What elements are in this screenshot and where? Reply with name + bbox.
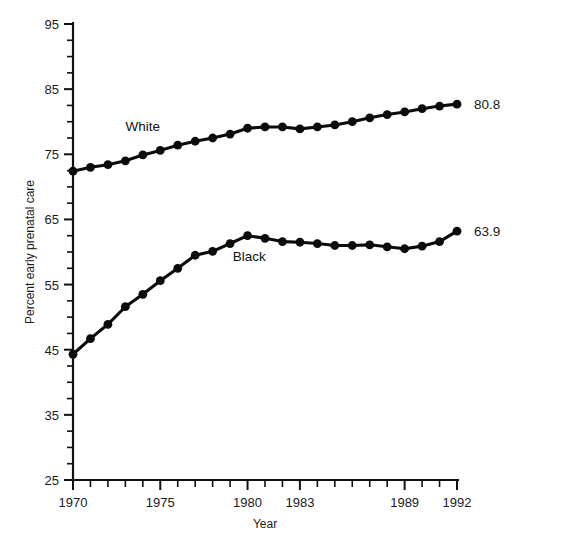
- data-point: [365, 113, 374, 122]
- data-point: [138, 151, 147, 160]
- data-point: [243, 231, 252, 240]
- data-point: [208, 134, 217, 143]
- data-point: [383, 242, 392, 251]
- data-point: [330, 121, 339, 130]
- data-point: [418, 104, 427, 113]
- data-point: [69, 350, 78, 359]
- data-point: [400, 244, 409, 253]
- data-point: [173, 141, 182, 150]
- data-point: [383, 110, 392, 119]
- x-tick-label: 1992: [443, 495, 472, 510]
- series-white: [69, 100, 462, 176]
- data-point: [208, 247, 217, 256]
- x-axis-ticks: [73, 480, 457, 490]
- data-point: [243, 124, 252, 133]
- x-tick-label: 1989: [390, 495, 419, 510]
- y-tick-label: 95: [45, 17, 59, 32]
- y-tick-label: 35: [45, 408, 59, 423]
- data-point: [261, 123, 270, 132]
- data-point: [226, 130, 235, 139]
- data-point: [278, 237, 287, 246]
- data-point: [104, 160, 113, 169]
- data-point: [313, 123, 322, 132]
- y-tick-label: 75: [45, 147, 59, 162]
- x-tick-label: 1970: [59, 495, 88, 510]
- x-tick-label: 1975: [146, 495, 175, 510]
- data-point: [435, 102, 444, 111]
- data-point: [365, 240, 374, 249]
- data-point: [191, 137, 200, 146]
- data-point: [86, 334, 95, 343]
- y-tick-label: 65: [45, 212, 59, 227]
- data-point: [156, 276, 165, 285]
- data-point: [156, 146, 165, 155]
- x-tick-label: 1980: [233, 495, 262, 510]
- prenatal-care-line-chart: 2535455565758595 19701975198019831989199…: [0, 0, 566, 550]
- y-tick-label: 55: [45, 278, 59, 293]
- end-value-label-white: 80.8: [474, 97, 500, 112]
- data-point: [296, 124, 305, 133]
- series-inline-label: Black: [233, 249, 266, 264]
- series-inline-label: White: [126, 119, 161, 134]
- data-point: [191, 251, 200, 260]
- data-point: [435, 237, 444, 246]
- data-point: [261, 234, 270, 243]
- data-point: [104, 320, 113, 329]
- series-black: [69, 227, 462, 359]
- data-point: [173, 264, 182, 273]
- y-axis-tick-labels: 2535455565758595: [45, 17, 59, 488]
- y-axis-ticks: [64, 24, 73, 480]
- data-series-group: [69, 100, 462, 359]
- data-point: [138, 290, 147, 299]
- data-point: [418, 242, 427, 251]
- data-point: [121, 302, 130, 311]
- data-point: [313, 239, 322, 248]
- data-point: [226, 239, 235, 248]
- x-tick-label: 1983: [285, 495, 314, 510]
- series-line: [73, 104, 457, 171]
- y-tick-label: 25: [45, 473, 59, 488]
- data-point: [400, 108, 409, 117]
- data-point: [278, 123, 287, 132]
- data-point: [121, 156, 130, 165]
- data-point: [69, 167, 78, 176]
- data-point: [453, 227, 462, 236]
- data-point: [453, 100, 462, 109]
- data-point: [348, 117, 357, 126]
- y-tick-label: 85: [45, 82, 59, 97]
- data-point: [348, 241, 357, 250]
- data-point: [86, 163, 95, 172]
- y-axis-title: Percent early prenatal care: [23, 180, 37, 324]
- y-tick-label: 45: [45, 343, 59, 358]
- chart-canvas: 2535455565758595 19701975198019831989199…: [0, 0, 566, 550]
- end-value-label-black: 63.9: [474, 224, 500, 239]
- series-end-labels: 80.863.9: [474, 97, 500, 239]
- x-axis-title: Year: [253, 517, 277, 531]
- data-point: [296, 238, 305, 247]
- x-axis-tick-labels: 197019751980198319891992: [59, 495, 472, 510]
- data-point: [330, 241, 339, 250]
